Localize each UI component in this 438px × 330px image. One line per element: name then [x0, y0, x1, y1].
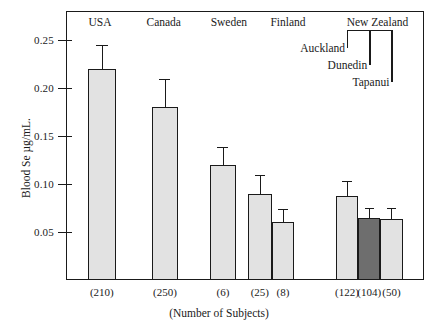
n-label-sweden: (6) [217, 286, 230, 298]
y-axis-title: Blood Se µg/mL. [20, 88, 32, 228]
y-axis-tick [58, 88, 72, 89]
bracket-label-auckland: Auckland [300, 42, 345, 54]
bar-finland8 [272, 222, 294, 280]
error-bar-cap-auckland [342, 181, 351, 182]
bar-finland25 [248, 194, 272, 280]
n-label-finland8: (8) [277, 286, 290, 298]
chart-figure: Blood Se µg/mL. 0.050.100.150.200.25 USA… [0, 0, 438, 330]
error-bar-stem-finland25 [260, 175, 261, 193]
bracket-label-dunedin: Dunedin [328, 59, 368, 71]
n-label-usa: (210) [90, 286, 114, 298]
y-axis-tick-label: 0.25 [34, 34, 54, 46]
bar-sweden [210, 165, 236, 280]
y-axis-tick [58, 184, 72, 185]
y-axis-tick [58, 232, 72, 233]
bracket-drop-dunedin [369, 30, 370, 65]
bar-tapanui [380, 219, 402, 280]
bracket-drop-tapanui [391, 30, 392, 82]
y-axis-tick-label: 0.20 [34, 82, 54, 94]
x-axis-title: (Number of Subjects) [0, 307, 438, 319]
error-bar-stem-finland8 [283, 209, 284, 222]
y-axis-tick [58, 40, 72, 41]
error-bar-cap-sweden [217, 147, 228, 148]
group-header-finland: Finland [270, 16, 305, 28]
n-label-finland25: (25) [251, 286, 269, 298]
error-bar-cap-finland8 [278, 209, 287, 210]
error-bar-stem-tapanui [391, 208, 392, 219]
error-bar-cap-dunedin [365, 208, 374, 209]
error-bar-cap-canada [159, 79, 170, 80]
n-label-auckland: (122) [335, 286, 359, 298]
bracket-drop-auckland [347, 30, 348, 48]
bar-canada [152, 107, 178, 280]
n-label-dunedin: (104) [357, 286, 381, 298]
group-header-new-zealand: New Zealand [347, 16, 409, 28]
n-label-tapanui: (50) [382, 286, 400, 298]
error-bar-cap-finland25 [255, 175, 265, 176]
y-axis-tick-label: 0.10 [34, 178, 54, 190]
error-bar-stem-usa [102, 45, 103, 69]
n-label-canada: (250) [153, 286, 177, 298]
y-axis-tick-label: 0.15 [34, 130, 54, 142]
bar-dunedin [358, 218, 380, 280]
bar-auckland [336, 196, 358, 280]
group-header-usa: USA [88, 16, 111, 28]
error-bar-stem-dunedin [369, 208, 370, 218]
bracket-label-tapanui: Tapanui [353, 76, 390, 88]
error-bar-stem-canada [165, 79, 166, 107]
error-bar-stem-sweden [223, 147, 224, 164]
group-header-sweden: Sweden [211, 16, 247, 28]
error-bar-cap-tapanui [387, 208, 396, 209]
bar-usa [88, 69, 116, 280]
group-header-canada: Canada [146, 16, 180, 28]
error-bar-stem-auckland [347, 181, 348, 196]
error-bar-cap-usa [96, 45, 108, 46]
y-axis-tick [58, 136, 72, 137]
y-axis-tick-label: 0.05 [34, 226, 54, 238]
